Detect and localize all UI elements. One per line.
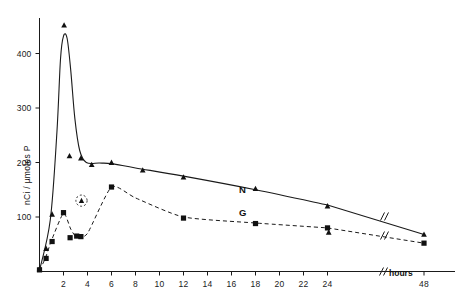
y-axis-title: nCi / µmoles P [22,145,32,205]
data-point-triangle [79,198,84,203]
x-tick-label: 14 [198,279,218,289]
y-tick-label: 100 [6,212,32,222]
data-point-square [109,184,114,189]
x-tick-label: 16 [222,279,242,289]
curve-label-n: N [239,184,246,195]
data-point-triangle [109,160,115,165]
data-point-square [181,215,186,220]
figure-container: nCi / µmoles P hours N G 100200300400 24… [0,0,462,295]
x-tick-label: 4 [78,279,98,289]
x-tick-label: 24 [318,279,338,289]
data-point-square [37,267,42,272]
chart-plot-area [0,0,462,295]
data-point-triangle [253,186,259,191]
data-point-triangle [67,153,73,158]
axis-break-tick [381,212,385,220]
data-point-square [68,235,73,240]
data-point-square [44,256,49,261]
data-point-triangle [61,22,67,27]
data-point-triangle [49,211,55,216]
axis-break-tick [381,232,385,240]
data-point-triangle [89,162,95,167]
y-tick-label: 300 [6,103,32,113]
data-point-square [61,210,66,215]
x-tick-label: 2 [54,279,74,289]
axis-break-tick [385,232,389,240]
data-point-square [78,234,83,239]
x-tick-label: 10 [150,279,170,289]
data-point-square [50,239,55,244]
x-tick-label: 6 [102,279,122,289]
data-point-square [325,225,330,230]
data-point-square [253,221,258,226]
y-tick-label: 400 [6,49,32,59]
x-tick-label: 48 [414,279,434,289]
x-axis-title: hours [389,268,413,278]
x-tick-label: 20 [270,279,290,289]
axes-group [36,18,456,276]
x-tick-label: 12 [174,279,194,289]
axis-break-tick [385,212,389,220]
y-tick-label: 200 [6,158,32,168]
series-line-g [40,186,328,270]
x-tick-label: 8 [126,279,146,289]
series-group [40,34,425,271]
x-tick-label: 22 [294,279,314,289]
markers-group [37,22,427,272]
x-tick-label: 18 [246,279,266,289]
data-point-triangle [43,246,49,251]
data-point-square [421,241,426,246]
curve-label-g: G [239,207,246,218]
